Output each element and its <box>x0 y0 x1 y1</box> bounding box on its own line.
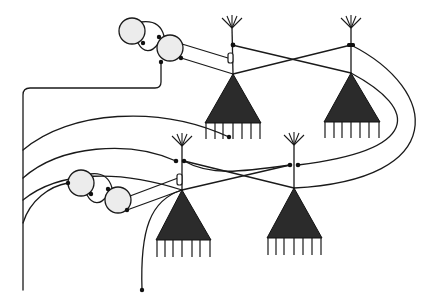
neural-circuit-diagram <box>0 0 443 305</box>
fiber-left-to-p1-base <box>23 116 229 150</box>
i2-axon-to-p1-apex <box>178 57 233 74</box>
basal-legs <box>325 122 379 138</box>
fiber-left-to-i3 <box>23 183 68 223</box>
i1-i2-loop-lower <box>138 43 158 51</box>
synapse-bracket <box>177 174 182 185</box>
dendritic-tuft-icon <box>284 132 304 145</box>
synapse-dot <box>66 181 70 185</box>
fiber-left-to-p3-dendrite <box>23 148 176 178</box>
synapse-dot <box>157 35 161 39</box>
basal-legs <box>157 240 210 257</box>
synapse-dot <box>89 192 93 196</box>
cross-p3apex-to-p4dot <box>182 165 290 190</box>
dendritic-tuft-icon <box>172 133 192 146</box>
synapse-dot <box>141 41 145 45</box>
synapse-bracket <box>228 53 233 63</box>
fiber-bus-to-p3-apex-upper <box>23 176 182 200</box>
dendritic-tuft-icon <box>222 15 242 28</box>
dendritic-tuft-icon <box>341 15 361 28</box>
synapse-dot <box>125 208 129 212</box>
synapse-dot <box>179 56 183 60</box>
i2-axon-to-p1-bracket <box>182 44 228 58</box>
loop-p4-dot-to-left <box>184 161 290 171</box>
pyramidal-neuron-p4 <box>267 132 322 255</box>
pyramidal-neuron-p3 <box>140 133 211 292</box>
pyramidal-neuron-p1 <box>205 15 261 139</box>
fibers <box>23 44 415 290</box>
interneuron-i1 <box>119 18 145 44</box>
pyramidal-neuron-p2 <box>324 15 380 138</box>
basal-legs <box>268 238 321 255</box>
synapse-dot <box>159 60 163 64</box>
i3-i4-loop-lower <box>87 195 107 203</box>
synapse-dot <box>106 187 110 191</box>
interneurons <box>66 18 183 213</box>
cross-p3dot-to-p4apex <box>184 161 294 188</box>
